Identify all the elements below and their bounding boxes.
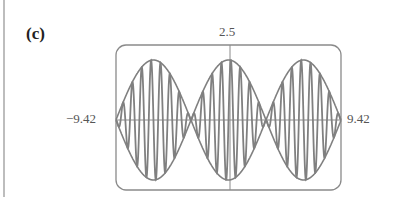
graph-plot	[0, 0, 397, 197]
